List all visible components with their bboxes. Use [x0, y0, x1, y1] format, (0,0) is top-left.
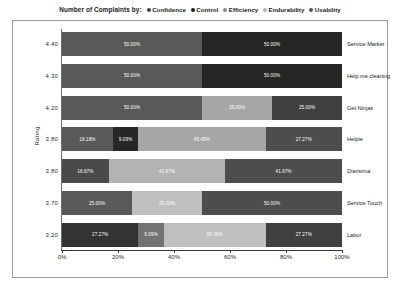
legend-label: Control [196, 6, 218, 13]
legend-swatch-icon [147, 8, 151, 12]
x-axis-tick-mark [174, 250, 175, 253]
bar-segment-label: 27.27% [92, 232, 108, 237]
x-axis-tick-mark [286, 250, 287, 253]
bar-segment-label: 27.27% [296, 137, 312, 142]
bar-row: 3.2027.27%9.09%36.36%27.27%Labor [62, 223, 342, 247]
legend-label: Endurability [269, 6, 305, 13]
bar-segment-label: 50.00% [264, 73, 280, 78]
bar-row: 3.8016.67%41.67%41.67%Diarisima [62, 159, 342, 183]
bar-segment-label: 25.00% [89, 201, 105, 206]
bar-segment[interactable]: 50.00% [62, 96, 202, 120]
y-axis-title: Rating [34, 106, 40, 166]
bar-segment[interactable]: 9.09% [138, 223, 163, 247]
bar-segment-label: 36.36% [207, 232, 223, 237]
legend-item-control[interactable]: Control [191, 6, 219, 13]
bar-segment[interactable]: 25.00% [272, 96, 342, 120]
y-axis-tick-label: 3.20 [46, 232, 58, 238]
category-label: Diarisima [347, 168, 370, 174]
bar-segment[interactable]: 25.00% [62, 191, 132, 215]
legend-item-efficiency[interactable]: Efficiency [223, 6, 258, 13]
y-axis-tick-label: 3.70 [46, 200, 58, 206]
bar-segment-label: 25.00% [299, 105, 315, 110]
bar-segment[interactable]: 27.27% [266, 127, 342, 151]
x-axis-tick-label: 40% [168, 254, 180, 260]
bar-segment[interactable]: 18.18% [62, 127, 113, 151]
legend-label: Usability [315, 6, 341, 13]
bar-segment-label: 41.67% [276, 169, 292, 174]
category-label: Labor [347, 232, 361, 238]
bar-segment-label: 16.67% [77, 169, 93, 174]
legend-label: Confidence [152, 6, 186, 13]
bar-segment-label: 18.18% [79, 137, 95, 142]
x-axis-tick-label: 80% [280, 254, 292, 260]
y-axis-tick-label: 4.30 [46, 73, 58, 79]
bar-row: 4.2050.00%25.00%25.00%Get Ninjas [62, 96, 342, 120]
plot-area: 4.4050.00%50.00%Service Market4.3050.00%… [61, 29, 342, 251]
chart-title: Number of Complaints by: [59, 6, 141, 13]
category-label: Service Touch [347, 200, 382, 206]
legend-item-usability[interactable]: Usability [309, 6, 340, 13]
x-axis-tick-label: 20% [112, 254, 124, 260]
legend-swatch-icon [263, 8, 267, 12]
x-axis-tick-label: 0% [58, 254, 67, 260]
bar-row: 3.7025.00%25.00%50.00%Service Touch [62, 191, 342, 215]
bar-segment[interactable]: 45.45% [138, 127, 265, 151]
bar-segment-label: 9.09% [144, 232, 158, 237]
x-axis-tick-label: 60% [224, 254, 236, 260]
legend-swatch-icon [191, 8, 195, 12]
bar-segment[interactable]: 36.36% [164, 223, 266, 247]
bar-segment[interactable]: 41.67% [109, 159, 226, 183]
bar-segment-label: 9.09% [119, 137, 133, 142]
bar-row: 4.4050.00%50.00%Service Market [62, 32, 342, 56]
category-label: Get Ninjas [347, 105, 373, 111]
category-label: Service Market [347, 41, 384, 47]
y-axis-tick-label: 3.80 [46, 136, 58, 142]
bar-rows-container: 4.4050.00%50.00%Service Market4.3050.00%… [62, 29, 342, 250]
x-axis-tick-mark [118, 250, 119, 253]
legend-item-confidence[interactable]: Confidence [147, 6, 186, 13]
bar-segment[interactable]: 25.00% [132, 191, 202, 215]
x-axis-tick-mark [342, 250, 343, 253]
bar-segment-label: 45.45% [194, 137, 210, 142]
category-label: Help me cleaning [347, 73, 390, 79]
bar-segment[interactable]: 50.00% [202, 64, 342, 88]
bar-segment-label: 50.00% [124, 73, 140, 78]
bar-segment[interactable]: 50.00% [202, 32, 342, 56]
bar-segment-label: 50.00% [124, 105, 140, 110]
x-axis: 0%20%40%60%80%100% [62, 250, 342, 270]
x-axis-tick-mark [230, 250, 231, 253]
stacked-bar-chart: Number of Complaints by: Confidence Cont… [0, 0, 400, 289]
plot-frame: Rating 4.4050.00%50.00%Service Market4.3… [12, 20, 388, 278]
bar-segment[interactable]: 50.00% [62, 32, 202, 56]
bar-segment-label: 50.00% [264, 201, 280, 206]
legend-item-endurability[interactable]: Endurability [263, 6, 304, 13]
y-axis-tick-label: 3.80 [46, 168, 58, 174]
bar-segment[interactable]: 27.27% [62, 223, 138, 247]
bar-segment[interactable]: 41.67% [225, 159, 342, 183]
bar-segment-label: 41.67% [159, 169, 175, 174]
y-axis-tick-label: 4.20 [46, 105, 58, 111]
chart-legend: Number of Complaints by: Confidence Cont… [0, 3, 400, 16]
bar-row: 4.3050.00%50.00%Help me cleaning [62, 64, 342, 88]
bar-segment-label: 50.00% [124, 42, 140, 47]
y-axis-tick-label: 4.40 [46, 41, 58, 47]
legend-swatch-icon [309, 8, 313, 12]
bar-segment[interactable]: 16.67% [62, 159, 109, 183]
legend-swatch-icon [223, 8, 227, 12]
bar-segment[interactable]: 25.00% [202, 96, 272, 120]
x-axis-tick-label: 100% [334, 254, 349, 260]
category-label: Helpie [347, 136, 363, 142]
x-axis-tick-mark [62, 250, 63, 253]
bar-segment[interactable]: 9.09% [113, 127, 138, 151]
legend-label: Efficiency [229, 6, 258, 13]
bar-segment-label: 25.00% [159, 201, 175, 206]
bar-segment[interactable]: 27.27% [266, 223, 342, 247]
bar-row: 3.8018.18%9.09%45.45%27.27%Helpie [62, 127, 342, 151]
bar-segment[interactable]: 50.00% [62, 64, 202, 88]
bar-segment[interactable]: 50.00% [202, 191, 342, 215]
bar-segment-label: 25.00% [229, 105, 245, 110]
bar-segment-label: 50.00% [264, 42, 280, 47]
bar-segment-label: 27.27% [296, 232, 312, 237]
